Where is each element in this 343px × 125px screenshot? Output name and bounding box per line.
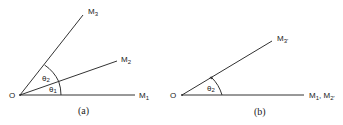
caption-a: (a) xyxy=(78,105,89,117)
arc-theta1 xyxy=(59,81,61,95)
ray-m2 xyxy=(20,61,117,95)
label-theta2: θ2 xyxy=(42,74,50,83)
origin-label-b: O xyxy=(170,91,176,100)
label-m3: M3 xyxy=(88,7,99,17)
panel-b: O M3' M1, M2' θ2 (b) xyxy=(170,34,335,118)
panel-a: O M1 M2 M3 θ1 θ2 (a) xyxy=(9,7,150,117)
label-theta2-b: θ2 xyxy=(207,84,215,93)
origin-point-b xyxy=(181,94,183,96)
label-m1: M1 xyxy=(139,91,150,101)
angle-diagram: O M1 M2 M3 θ1 θ2 (a) O M3' M1, M2' θ2 (b… xyxy=(0,0,343,125)
ray-m3 xyxy=(20,15,83,95)
label-m3prime: M3' xyxy=(277,34,288,44)
label-m1-m2prime: M1, M2' xyxy=(309,91,335,101)
origin-label-a: O xyxy=(9,91,15,100)
label-theta1: θ1 xyxy=(49,85,57,94)
origin-point xyxy=(19,94,21,96)
ray-m3prime xyxy=(182,41,272,95)
label-m2: M2 xyxy=(121,55,132,65)
caption-b: (b) xyxy=(254,106,266,118)
